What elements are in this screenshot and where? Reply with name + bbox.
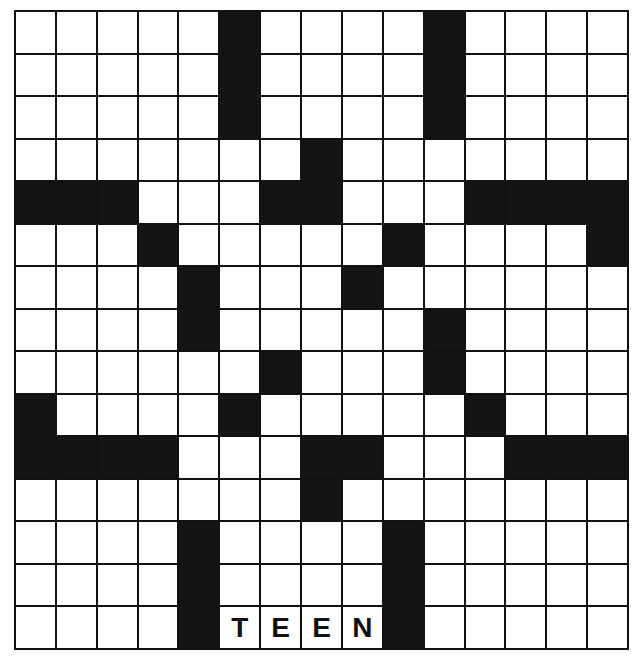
answer-cell[interactable]: [547, 140, 586, 181]
answer-cell[interactable]: T: [220, 607, 259, 648]
answer-cell[interactable]: [16, 607, 55, 648]
answer-cell[interactable]: [179, 182, 218, 223]
answer-cell[interactable]: [16, 480, 55, 521]
answer-cell[interactable]: [466, 607, 505, 648]
answer-cell[interactable]: [179, 437, 218, 478]
answer-cell[interactable]: [220, 182, 259, 223]
answer-cell[interactable]: [425, 565, 464, 606]
answer-cell[interactable]: [343, 352, 382, 393]
answer-cell[interactable]: [506, 310, 545, 351]
answer-cell[interactable]: [588, 55, 627, 96]
answer-cell[interactable]: [547, 522, 586, 563]
answer-cell[interactable]: [98, 607, 137, 648]
answer-cell[interactable]: [466, 480, 505, 521]
answer-cell[interactable]: [16, 12, 55, 53]
answer-cell[interactable]: [16, 310, 55, 351]
answer-cell[interactable]: [466, 97, 505, 138]
answer-cell[interactable]: [98, 12, 137, 53]
answer-cell[interactable]: [588, 310, 627, 351]
answer-cell[interactable]: [261, 522, 300, 563]
answer-cell[interactable]: [57, 607, 96, 648]
answer-cell[interactable]: [220, 352, 259, 393]
answer-cell[interactable]: [425, 182, 464, 223]
answer-cell[interactable]: [506, 12, 545, 53]
answer-cell[interactable]: [302, 97, 341, 138]
answer-cell[interactable]: [57, 352, 96, 393]
answer-cell[interactable]: [57, 395, 96, 436]
answer-cell[interactable]: [425, 480, 464, 521]
answer-cell[interactable]: [179, 395, 218, 436]
answer-cell[interactable]: [57, 225, 96, 266]
answer-cell[interactable]: [98, 140, 137, 181]
answer-cell[interactable]: [547, 12, 586, 53]
answer-cell[interactable]: [302, 565, 341, 606]
answer-cell[interactable]: [139, 395, 178, 436]
answer-cell[interactable]: [506, 267, 545, 308]
answer-cell[interactable]: [506, 522, 545, 563]
answer-cell[interactable]: [547, 607, 586, 648]
answer-cell[interactable]: [384, 97, 423, 138]
answer-cell[interactable]: [384, 480, 423, 521]
answer-cell[interactable]: [302, 395, 341, 436]
answer-cell[interactable]: [466, 267, 505, 308]
answer-cell[interactable]: [343, 310, 382, 351]
answer-cell[interactable]: [220, 225, 259, 266]
answer-cell[interactable]: [425, 140, 464, 181]
answer-cell[interactable]: [139, 55, 178, 96]
answer-cell[interactable]: [425, 267, 464, 308]
answer-cell[interactable]: [466, 522, 505, 563]
answer-cell[interactable]: [302, 522, 341, 563]
answer-cell[interactable]: [506, 607, 545, 648]
answer-cell[interactable]: [261, 12, 300, 53]
answer-cell[interactable]: [16, 225, 55, 266]
answer-cell[interactable]: [179, 55, 218, 96]
answer-cell[interactable]: [466, 565, 505, 606]
answer-cell[interactable]: [506, 97, 545, 138]
answer-cell[interactable]: [139, 12, 178, 53]
answer-cell[interactable]: [220, 140, 259, 181]
answer-cell[interactable]: [343, 225, 382, 266]
answer-cell[interactable]: [547, 480, 586, 521]
answer-cell[interactable]: [302, 12, 341, 53]
answer-cell[interactable]: [343, 12, 382, 53]
answer-cell[interactable]: [139, 140, 178, 181]
answer-cell[interactable]: [547, 395, 586, 436]
answer-cell[interactable]: [16, 140, 55, 181]
answer-cell[interactable]: [57, 310, 96, 351]
answer-cell[interactable]: [261, 480, 300, 521]
answer-cell[interactable]: [57, 565, 96, 606]
answer-cell[interactable]: [343, 182, 382, 223]
answer-cell[interactable]: [98, 310, 137, 351]
answer-cell[interactable]: [384, 352, 423, 393]
answer-cell[interactable]: [139, 97, 178, 138]
answer-cell[interactable]: [547, 565, 586, 606]
answer-cell[interactable]: [220, 437, 259, 478]
answer-cell[interactable]: [588, 522, 627, 563]
answer-cell[interactable]: [547, 225, 586, 266]
answer-cell[interactable]: [220, 267, 259, 308]
answer-cell[interactable]: [57, 55, 96, 96]
answer-cell[interactable]: [384, 182, 423, 223]
answer-cell[interactable]: [261, 267, 300, 308]
answer-cell[interactable]: [98, 55, 137, 96]
answer-cell[interactable]: [139, 182, 178, 223]
answer-cell[interactable]: [179, 480, 218, 521]
answer-cell[interactable]: [343, 565, 382, 606]
answer-cell[interactable]: [588, 480, 627, 521]
answer-cell[interactable]: [139, 607, 178, 648]
answer-cell[interactable]: [588, 12, 627, 53]
answer-cell[interactable]: [588, 97, 627, 138]
answer-cell[interactable]: [466, 55, 505, 96]
answer-cell[interactable]: [179, 12, 218, 53]
answer-cell[interactable]: [139, 267, 178, 308]
answer-cell[interactable]: [343, 140, 382, 181]
answer-cell[interactable]: [588, 140, 627, 181]
answer-cell[interactable]: [57, 12, 96, 53]
answer-cell[interactable]: [466, 140, 505, 181]
answer-cell[interactable]: [139, 310, 178, 351]
answer-cell[interactable]: [98, 267, 137, 308]
answer-cell[interactable]: [98, 522, 137, 563]
answer-cell[interactable]: [220, 310, 259, 351]
answer-cell[interactable]: [220, 480, 259, 521]
answer-cell[interactable]: [506, 352, 545, 393]
